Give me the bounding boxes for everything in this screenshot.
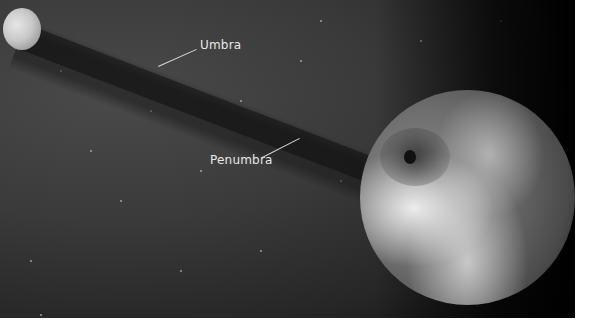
star bbox=[200, 170, 202, 172]
star bbox=[120, 200, 122, 202]
star bbox=[30, 260, 32, 262]
star bbox=[40, 314, 42, 316]
star bbox=[320, 20, 322, 22]
star bbox=[90, 150, 92, 152]
star bbox=[300, 60, 302, 62]
umbra-spot-on-earth bbox=[404, 150, 416, 164]
earth bbox=[360, 90, 575, 305]
star bbox=[500, 20, 502, 22]
umbra-label: Umbra bbox=[200, 38, 241, 52]
umbra-leader-line bbox=[158, 49, 197, 67]
star bbox=[260, 250, 262, 252]
star bbox=[420, 40, 422, 42]
moon bbox=[3, 8, 41, 50]
penumbra-label: Penumbra bbox=[210, 153, 273, 167]
star bbox=[180, 270, 182, 272]
eclipse-illustration: Umbra Penumbra bbox=[0, 0, 575, 318]
